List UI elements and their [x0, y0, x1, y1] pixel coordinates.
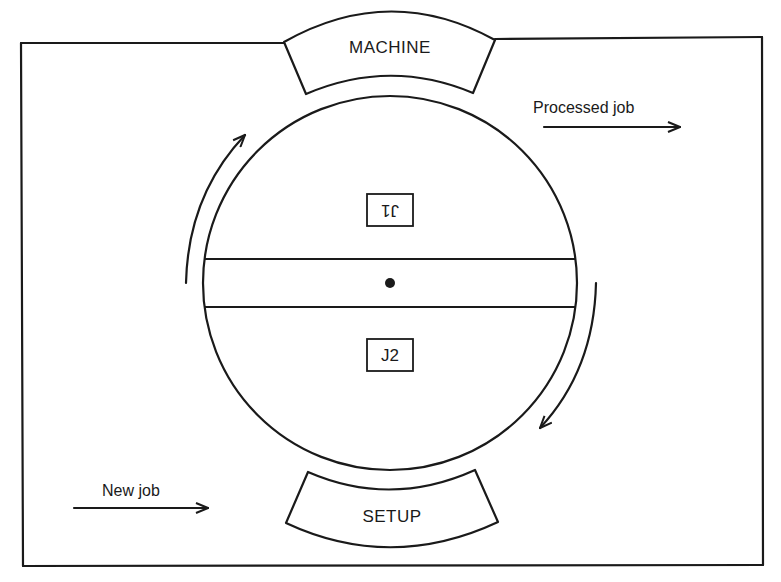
rotation-arrow-left-icon [186, 135, 245, 283]
processed-job-flow: Processed job [533, 99, 680, 127]
rotary-table-diagram: MACHINE SETUP J1 J2 Processed job New jo [0, 0, 781, 582]
setup-station: SETUP [286, 470, 498, 547]
pivot-dot-icon [385, 278, 395, 288]
new-job-flow: New job [74, 482, 208, 508]
new-job-label: New job [102, 482, 160, 499]
rotation-arrow-right-icon [540, 283, 596, 428]
job-slot-j1: J1 [367, 194, 413, 226]
processed-job-label: Processed job [533, 99, 634, 116]
machine-label: MACHINE [349, 38, 431, 57]
job-label-j2: J2 [381, 346, 399, 365]
turntable: J1 J2 [203, 96, 577, 470]
job-label-j1: J1 [381, 201, 399, 220]
machine-station: MACHINE [284, 11, 495, 94]
setup-label: SETUP [362, 507, 421, 526]
job-slot-j2: J2 [367, 339, 413, 371]
